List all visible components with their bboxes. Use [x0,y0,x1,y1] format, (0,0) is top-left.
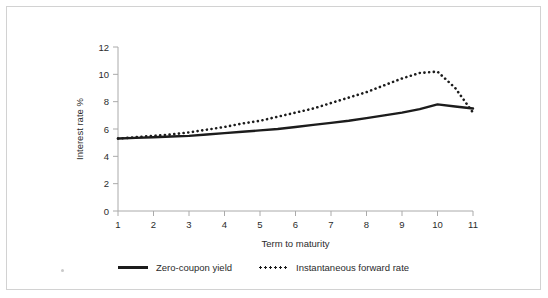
svg-text:3: 3 [186,219,191,230]
svg-text:6: 6 [293,219,298,230]
svg-text:4: 4 [222,219,227,230]
svg-text:1: 1 [115,219,120,230]
svg-text:10: 10 [432,219,443,230]
figure: 0246810121234567891011Term to maturityIn… [0,0,548,298]
series-lines [118,72,473,139]
svg-text:11: 11 [468,219,478,230]
svg-text:Interest rate %: Interest rate % [74,98,85,160]
chart-legend: Zero-coupon yield Instantaneous forward … [118,256,478,278]
legend-item-instantaneous-forward-rate[interactable]: Instantaneous forward rate [258,262,409,273]
svg-text:2: 2 [151,219,156,230]
svg-text:12: 12 [98,42,109,53]
axis-labels: 0246810121234567891011Term to maturityIn… [74,42,478,250]
svg-text:6: 6 [104,124,109,135]
chart-canvas: 0246810121234567891011Term to maturityIn… [0,0,548,298]
solid-line-swatch-icon [118,266,148,269]
legend-label: Zero-coupon yield [156,262,232,273]
svg-text:0: 0 [104,206,109,217]
svg-text:Term to maturity: Term to maturity [261,238,329,249]
svg-text:8: 8 [104,96,109,107]
svg-text:7: 7 [328,219,333,230]
svg-text:5: 5 [257,219,262,230]
legend-label: Instantaneous forward rate [296,262,409,273]
svg-text:4: 4 [104,151,109,162]
svg-text:2: 2 [104,178,109,189]
svg-text:8: 8 [364,219,369,230]
dotted-line-swatch-icon [258,266,288,269]
legend-item-zero-coupon-yield[interactable]: Zero-coupon yield [118,262,232,273]
svg-text:10: 10 [98,69,109,80]
svg-text:9: 9 [399,219,404,230]
